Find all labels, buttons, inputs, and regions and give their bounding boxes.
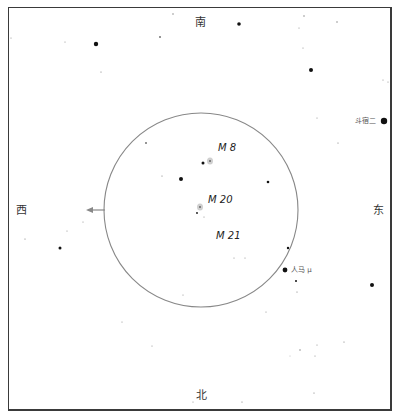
star-label-kaus-borealis: 斗宿二 (355, 118, 376, 125)
direction-label-north: 北 (196, 390, 207, 401)
chart-frame (8, 7, 392, 411)
direction-label-west: 西 (16, 205, 27, 216)
star-label-mu-sgr: 人马 μ (291, 267, 312, 274)
direction-label-south: 南 (195, 17, 206, 28)
object-label-m21: M 21 (216, 231, 241, 241)
direction-label-east: 东 (373, 205, 384, 216)
object-label-m8: M 8 (218, 143, 236, 153)
object-label-m20: M 20 (208, 195, 233, 205)
